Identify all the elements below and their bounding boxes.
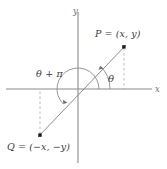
point-q-marker — [38, 133, 41, 136]
y-axis-label: y — [73, 7, 78, 16]
theta-plus-pi-label: θ + π — [36, 69, 63, 79]
theta-plus-pi-arc-arrowhead — [63, 100, 68, 104]
point-p-label: P = (x, y) — [95, 29, 141, 39]
point-q-label: Q = (−x, −y) — [7, 142, 70, 152]
x-axis-label: x — [155, 85, 160, 94]
line-through-origin — [38, 45, 126, 137]
point-p-marker — [122, 45, 125, 48]
trigonometry-figure: P = (x, y) Q = (−x, −y) θ θ + π x y — [0, 0, 167, 169]
theta-label: θ — [108, 74, 114, 84]
